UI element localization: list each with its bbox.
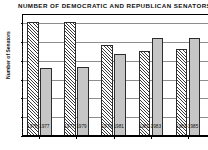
bar-group (176, 15, 201, 137)
x-tick-label: 1983-1985 (176, 124, 198, 129)
x-tick-mark (76, 137, 77, 139)
bar-republican-1981-1983 (152, 38, 164, 137)
x-tick-mark (39, 137, 40, 139)
x-tick-label: 1975-1977 (27, 124, 49, 129)
bar-democratic-1977-1979 (64, 22, 76, 137)
y-axis-title: Number of Senators (5, 25, 11, 85)
bar-republican-1983-1985 (189, 38, 201, 137)
x-axis-line (22, 135, 208, 137)
x-tick-label: 1977-1979 (64, 124, 86, 129)
bar-series-container (23, 15, 208, 137)
bar-group (101, 15, 126, 137)
bar-democratic-1975-1977 (27, 22, 39, 137)
x-tick-label: 1979-1981 (101, 124, 123, 129)
bar-group (139, 15, 164, 137)
x-tick-mark (114, 137, 115, 139)
x-tick-mark (151, 137, 152, 139)
chart-title: NUMBER OF DEMOCRATIC AND REPUBLICAN SENA… (18, 2, 204, 9)
bar-group (64, 15, 89, 137)
plot-area (22, 14, 208, 137)
x-tick-label: 1981-1983 (139, 124, 161, 129)
x-tick-mark (188, 137, 189, 139)
bar-chart: NUMBER OF DEMOCRATIC AND REPUBLICAN SENA… (0, 0, 208, 150)
plot-inner (23, 15, 208, 137)
bar-group (27, 15, 52, 137)
